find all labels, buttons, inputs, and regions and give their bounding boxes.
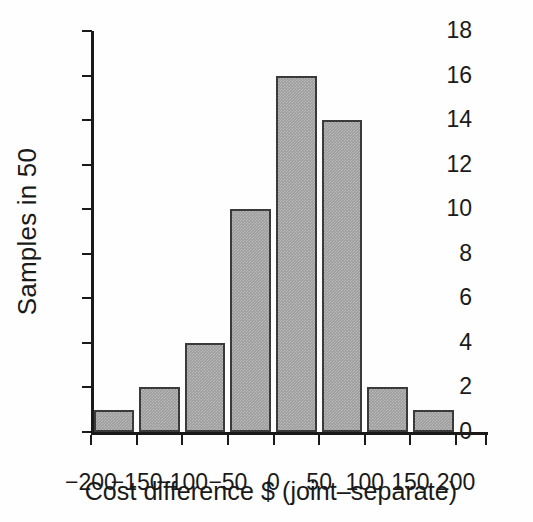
x-tick xyxy=(364,435,366,445)
x-tick xyxy=(409,435,411,445)
y-tick xyxy=(82,253,92,255)
histogram-bar xyxy=(276,76,317,432)
y-tick xyxy=(82,30,92,32)
y-tick xyxy=(82,297,92,299)
x-axis-end-tick xyxy=(485,435,487,445)
x-tick xyxy=(273,435,275,445)
y-tick-label: 18 xyxy=(426,19,472,42)
y-tick xyxy=(82,342,92,344)
x-tick xyxy=(136,435,138,445)
y-tick xyxy=(82,208,92,210)
histogram-bar xyxy=(185,343,226,432)
y-tick xyxy=(82,431,92,433)
y-tick-label: 16 xyxy=(426,64,472,87)
y-tick-label: 10 xyxy=(426,197,472,220)
y-tick-label: 12 xyxy=(426,153,472,176)
y-tick-label: 6 xyxy=(426,286,472,309)
histogram-bar xyxy=(322,120,363,432)
histogram-bar xyxy=(367,387,408,432)
y-tick xyxy=(82,119,92,121)
histogram-bar xyxy=(413,410,454,432)
y-tick-label: 2 xyxy=(426,375,472,398)
histogram-bar xyxy=(94,410,135,432)
y-tick xyxy=(82,164,92,166)
histogram-figure: Samples in 50 024681012141618 −200−150−1… xyxy=(0,0,533,522)
y-tick-label: 8 xyxy=(426,242,472,265)
histogram-bar xyxy=(230,209,271,432)
x-tick xyxy=(318,435,320,445)
plot-area: 024681012141618 −200−150−100−50050100150… xyxy=(91,31,488,435)
y-tick-label: 14 xyxy=(426,108,472,131)
x-tick xyxy=(181,435,183,445)
x-axis-title: Cost difference $ (joint–separate) xyxy=(56,477,486,506)
histogram-bar xyxy=(139,387,180,432)
y-tick-label: 4 xyxy=(426,331,472,354)
y-tick xyxy=(82,386,92,388)
y-axis-title: Samples in 50 xyxy=(12,82,43,382)
y-axis-line xyxy=(91,31,94,435)
x-tick xyxy=(455,435,457,445)
x-tick xyxy=(227,435,229,445)
x-tick xyxy=(90,435,92,445)
y-tick xyxy=(82,75,92,77)
